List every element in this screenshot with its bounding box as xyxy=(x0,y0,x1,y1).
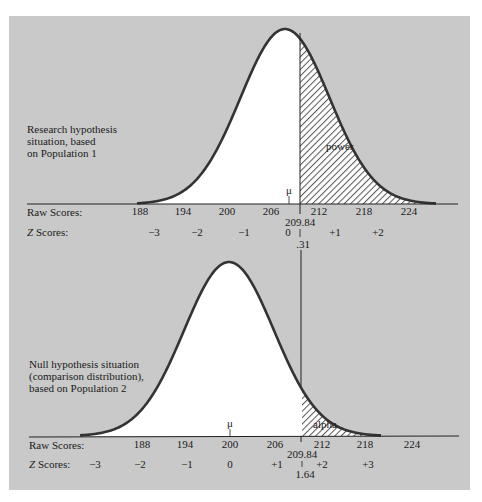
top-raw-tick: 218 xyxy=(356,205,373,217)
bottom-description-line-3: based on Population 2 xyxy=(29,382,126,394)
bottom-raw-tick: 200 xyxy=(222,438,239,450)
bottom-z-tick: +3 xyxy=(362,458,374,470)
top-raw-tick: 200 xyxy=(219,205,236,217)
top-cutoff-z: .31 xyxy=(296,238,310,250)
power-label: power xyxy=(326,140,354,152)
bottom-z-scores-label: Z Scores: xyxy=(29,458,70,470)
bottom-z-tick: +2 xyxy=(316,458,328,470)
power-diagram: μ power Research hypothesis situation, b… xyxy=(0,0,482,502)
bottom-distribution: μ alpha Null hypothesis situation (compa… xyxy=(29,262,459,480)
top-z-tick: +2 xyxy=(372,226,384,238)
top-raw-tick: 206 xyxy=(263,205,280,217)
top-raw-tick: 194 xyxy=(175,205,192,217)
bottom-z-tick: −3 xyxy=(89,458,101,470)
bottom-z-tick: −1 xyxy=(181,458,193,470)
bottom-raw-tick: 194 xyxy=(177,438,194,450)
top-z-tick: −2 xyxy=(191,226,203,238)
bottom-mu-label: μ xyxy=(227,417,233,429)
top-raw-tick: 224 xyxy=(401,205,418,217)
bottom-raw-scores-label: Raw Scores: xyxy=(29,439,84,451)
top-z-tick: −3 xyxy=(148,226,160,238)
bottom-z-tick: −2 xyxy=(134,458,146,470)
bottom-z-tick: +1 xyxy=(271,458,283,470)
bottom-raw-tick: 206 xyxy=(267,438,284,450)
top-description-line-3: on Population 1 xyxy=(27,147,97,159)
bottom-raw-tick: 224 xyxy=(404,438,421,450)
top-z-scores-label: Z Scores: xyxy=(27,226,68,238)
top-description-line-1: Research hypothesis xyxy=(27,123,117,135)
top-raw-tick: 188 xyxy=(132,205,149,217)
top-z-tick: −1 xyxy=(238,226,250,238)
bottom-description-line-1: Null hypothesis situation xyxy=(29,358,140,370)
top-curve-area xyxy=(137,29,436,204)
top-mu-label: μ xyxy=(286,184,292,196)
bottom-raw-tick: 188 xyxy=(134,438,151,450)
top-distribution: μ power Research hypothesis situation, b… xyxy=(27,29,458,250)
bottom-cutoff-raw: 209.84 xyxy=(287,448,318,460)
top-z-tick: +1 xyxy=(329,226,341,238)
top-description-line-2: situation, based xyxy=(27,135,96,147)
top-z-tick: 0 xyxy=(285,226,291,238)
bottom-curve-area xyxy=(80,262,381,436)
bottom-baseline xyxy=(29,436,459,437)
bottom-z-tick: 0 xyxy=(227,458,233,470)
top-raw-scores-label: Raw Scores: xyxy=(27,206,82,218)
alpha-label: alpha xyxy=(313,418,337,430)
bottom-cutoff-z: 1.64 xyxy=(295,468,315,480)
bottom-raw-tick: 218 xyxy=(357,438,374,450)
